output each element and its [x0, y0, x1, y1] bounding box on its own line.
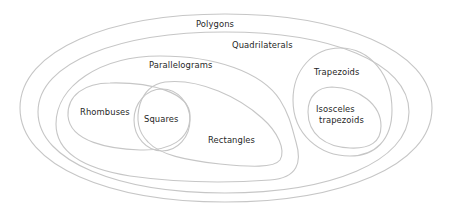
- parallelograms-label: Parallelograms: [149, 60, 212, 70]
- isosceles-trapezoids-label-line1: Isosceles: [316, 104, 355, 114]
- trapezoids-label: Trapezoids: [314, 67, 359, 77]
- quadrilateral-hierarchy-diagram: Polygons Quadrilaterals Parallelograms R…: [0, 0, 451, 210]
- rectangles-label: Rectangles: [208, 135, 255, 145]
- isosceles-trapezoids-label-line2: trapezoids: [319, 115, 364, 125]
- rhombuses-label: Rhombuses: [80, 107, 130, 117]
- polygons-label: Polygons: [196, 19, 234, 29]
- diagram-outlines: [0, 0, 451, 210]
- quadrilaterals-label: Quadrilaterals: [232, 40, 293, 50]
- squares-label: Squares: [144, 114, 179, 124]
